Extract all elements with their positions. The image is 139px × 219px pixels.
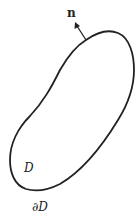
arrowhead-icon bbox=[75, 22, 81, 29]
region-diagram: n D ∂D bbox=[0, 0, 139, 219]
normal-label: n bbox=[67, 6, 76, 20]
normal-vector-arrow bbox=[77, 26, 86, 40]
boundary-label: ∂D bbox=[32, 200, 48, 214]
region-label: D bbox=[23, 161, 34, 175]
